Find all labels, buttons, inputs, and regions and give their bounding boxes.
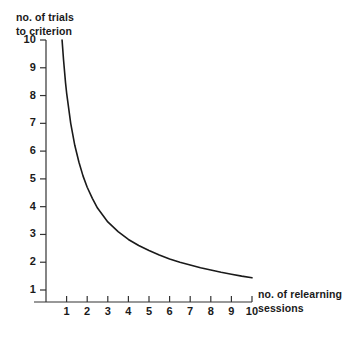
y-tick-label: 2 bbox=[14, 255, 36, 267]
y-tick-label: 4 bbox=[14, 200, 36, 212]
x-tick-label: 2 bbox=[79, 305, 95, 317]
chart-page: no. of trials to criterion no. of relear… bbox=[0, 0, 342, 339]
y-tick-label: 9 bbox=[14, 61, 36, 73]
x-tick-label: 9 bbox=[223, 305, 239, 317]
x-tick-label: 1 bbox=[59, 305, 75, 317]
x-tick-label: 8 bbox=[203, 305, 219, 317]
x-tick-label: 10 bbox=[244, 305, 260, 317]
y-tick-label: 8 bbox=[14, 89, 36, 101]
x-tick-label: 5 bbox=[141, 305, 157, 317]
x-axis-ticks bbox=[67, 296, 252, 302]
y-tick-label: 3 bbox=[14, 227, 36, 239]
y-tick-label: 5 bbox=[14, 172, 36, 184]
x-tick-label: 4 bbox=[120, 305, 136, 317]
y-axis-ticks bbox=[40, 40, 46, 290]
axes-group bbox=[34, 40, 252, 302]
y-tick-label: 7 bbox=[14, 116, 36, 128]
x-tick-label: 3 bbox=[100, 305, 116, 317]
data-curve-trials-to-criterion bbox=[62, 40, 252, 278]
x-axis-title: no. of relearning sessions bbox=[258, 288, 342, 315]
y-tick-label: 10 bbox=[14, 33, 36, 45]
y-tick-label: 6 bbox=[14, 144, 36, 156]
y-axis-title-line-1: no. of trials bbox=[16, 11, 74, 25]
x-axis-title-line-2: sessions bbox=[258, 302, 342, 316]
x-tick-label: 6 bbox=[162, 305, 178, 317]
y-tick-label: 1 bbox=[14, 283, 36, 295]
x-tick-label: 7 bbox=[182, 305, 198, 317]
x-axis-title-line-1: no. of relearning bbox=[258, 288, 342, 302]
